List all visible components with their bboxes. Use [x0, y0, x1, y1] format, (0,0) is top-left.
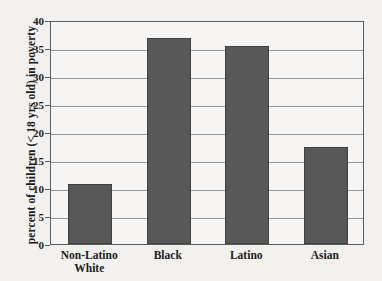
- y-tick-mark: [45, 77, 50, 78]
- x-tick-label: Latino: [207, 249, 286, 262]
- x-tick-label-line: Latino: [207, 249, 286, 262]
- gridline: [51, 78, 363, 79]
- x-tick-label-line: White: [50, 262, 129, 275]
- y-tick-label: 25: [4, 99, 44, 111]
- x-tick-label: Black: [129, 249, 208, 262]
- y-tick-label: 30: [4, 71, 44, 83]
- bar: [68, 184, 112, 244]
- bar: [147, 38, 191, 244]
- x-tick-label: Non-LatinoWhite: [50, 249, 129, 275]
- x-tick-label-line: Black: [129, 249, 208, 262]
- y-tick-label: 40: [4, 15, 44, 27]
- y-tick-mark: [45, 49, 50, 50]
- y-tick-label: 35: [4, 43, 44, 55]
- y-tick-mark: [45, 21, 50, 22]
- x-tick-label: Asian: [286, 249, 365, 262]
- y-tick-label: 0: [4, 239, 44, 251]
- y-tick-mark: [45, 245, 50, 246]
- bar-chart-figure: percent of children (< 18 yrs old) in po…: [0, 0, 382, 281]
- y-tick-label: 10: [4, 183, 44, 195]
- y-tick-label: 15: [4, 155, 44, 167]
- bar: [225, 46, 269, 244]
- x-tick-label-line: Non-Latino: [50, 249, 129, 262]
- gridline: [51, 50, 363, 51]
- bar: [304, 147, 348, 244]
- y-tick-mark: [45, 189, 50, 190]
- y-tick-mark: [45, 161, 50, 162]
- y-tick-mark: [45, 105, 50, 106]
- plot-area: [50, 21, 364, 245]
- x-tick-label-line: Asian: [286, 249, 365, 262]
- y-tick-mark: [45, 217, 50, 218]
- gridline: [51, 134, 363, 135]
- y-tick-mark: [45, 133, 50, 134]
- y-tick-label: 20: [4, 127, 44, 139]
- gridline: [51, 106, 363, 107]
- y-tick-label: 5: [4, 211, 44, 223]
